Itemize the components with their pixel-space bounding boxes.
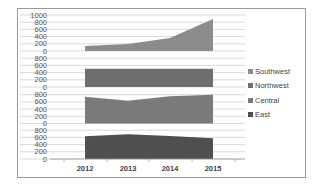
panel-central: 0200400600800 — [20, 90, 245, 128]
legend-label: Northwest — [255, 81, 289, 90]
legend-swatch-southwest — [248, 69, 253, 74]
svg-text:800: 800 — [34, 126, 47, 135]
legend-item-east: East — [248, 108, 308, 123]
legend: Southwest Northwest Central East — [248, 64, 308, 122]
svg-text:1000: 1000 — [30, 11, 47, 20]
legend-label: East — [255, 110, 270, 119]
legend-label: Central — [255, 96, 279, 105]
svg-text:800: 800 — [34, 90, 47, 99]
panel-southwest: 02004006008001000 — [20, 11, 245, 56]
legend-swatch-east — [248, 112, 253, 117]
panel-northwest: 0200400600800 — [20, 54, 245, 92]
legend-item-southwest: Southwest — [248, 64, 308, 79]
legend-item-central: Central — [248, 93, 308, 108]
svg-text:2014: 2014 — [162, 164, 180, 173]
legend-label: Southwest — [255, 67, 290, 76]
legend-item-northwest: Northwest — [248, 79, 308, 94]
legend-swatch-northwest — [248, 83, 253, 88]
panel-east: 0200400600800 — [20, 126, 245, 164]
svg-text:2015: 2015 — [205, 164, 222, 173]
svg-text:2012: 2012 — [77, 164, 94, 173]
svg-text:2013: 2013 — [120, 164, 137, 173]
svg-text:800: 800 — [34, 54, 47, 63]
legend-swatch-central — [248, 98, 253, 103]
